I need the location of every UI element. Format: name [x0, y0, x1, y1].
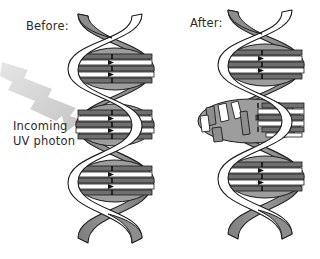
label-photon-line1: Incoming	[13, 119, 75, 134]
base-pair-rungs-after-bottom	[226, 156, 304, 198]
label-before: Before:	[26, 19, 69, 33]
dna-double-helix-after-icon	[198, 10, 304, 239]
base-pair-rungs-after-top	[226, 44, 304, 86]
label-after: After:	[190, 16, 223, 30]
figure-canvas: Before: After: Incoming UV photon	[0, 0, 320, 259]
label-incoming-uv-photon: Incoming UV photon	[13, 119, 75, 149]
label-photon-line2: UV photon	[13, 134, 75, 149]
dna-double-helix-before-icon	[68, 14, 154, 243]
